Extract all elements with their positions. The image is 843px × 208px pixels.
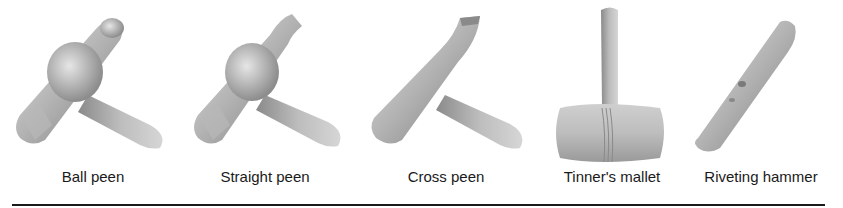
cross-peen-hammer: Cross peen (360, 0, 540, 208)
bottom-rule (12, 204, 825, 206)
ball-peen-hammer: Ball peen (0, 0, 180, 208)
hammer-types-figure: Ball peen Straight peen Cross peen Tinne… (0, 0, 843, 208)
cross-peen-hammer-illustration (360, 0, 540, 160)
tinners-mallet: Tinner's mallet (540, 0, 680, 208)
tool-label: Cross peen (408, 168, 485, 185)
straight-peen-hammer-illustration (180, 0, 360, 160)
riveting-hammer-illustration (680, 0, 843, 160)
straight-peen-hammer: Straight peen (180, 0, 360, 208)
tool-label: Ball peen (62, 168, 125, 185)
riveting-hammer: Riveting hammer (680, 0, 843, 208)
tool-label: Straight peen (220, 168, 309, 185)
tool-label: Riveting hammer (704, 168, 817, 185)
tool-label: Tinner's mallet (564, 168, 661, 185)
tinners-mallet-illustration (540, 0, 680, 170)
ball-peen-hammer-illustration (0, 0, 180, 160)
